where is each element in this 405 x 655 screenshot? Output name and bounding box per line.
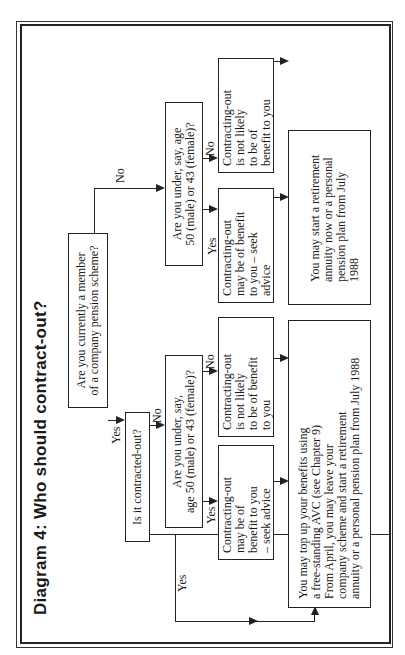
arrow-down-icon [116, 417, 125, 425]
no-label: No [203, 354, 218, 369]
arrow-down-icon [209, 206, 218, 214]
nonmember-not-likely-box: Contracting-out is not likely to be of b… [218, 58, 274, 173]
text-line: advice [260, 195, 273, 296]
question-member-line2: of a company pension scheme? [88, 240, 101, 401]
text-line: 1988 [348, 153, 361, 282]
yes-label: Yes [175, 575, 190, 592]
question-age-nonmember-line2: 50 (male) or 43 (female)? [184, 109, 197, 259]
flowchart: Diagram 4: Who should contract-out? Are … [17, 22, 392, 647]
diagram-title: Diagram 4: Who should contract-out? [31, 300, 51, 615]
no-label: No [203, 141, 218, 156]
no-label: No [150, 408, 165, 423]
question-contracted-out-box: Is it contracted-out? [125, 412, 150, 542]
arrow-down-icon [156, 185, 165, 193]
text-line: annuity or a personal pension plan from … [349, 329, 362, 599]
question-age-member-line2: age 50 (male) or 43 (female)? [184, 362, 197, 521]
member-benefit-box: Contracting-out may be of benefit to you… [218, 445, 274, 560]
yes-label: Yes [109, 427, 124, 444]
question-age-nonmember-box: Are you under, say, age 50 (male) or 43 … [165, 102, 203, 266]
connector-line [94, 188, 95, 233]
question-age-member-box: Are you under, say, age 50 (male) or 43 … [165, 355, 203, 528]
text-line: benefit to you [260, 65, 273, 166]
connector-line [94, 188, 162, 189]
question-member-box: Are you currently a member of a company … [68, 233, 108, 408]
arrow-down-icon [249, 618, 258, 626]
arrow-down-icon [280, 58, 289, 66]
text-line: – seek advice [260, 452, 273, 553]
no-label: No [113, 168, 128, 183]
nonmember-benefit-box: Contracting-out may be of benefit to you… [218, 188, 274, 303]
nonmember-outcome-box: You may start a retirement annuity now o… [288, 130, 371, 305]
connector-line [175, 621, 315, 622]
text-line: to you [260, 324, 273, 430]
question-contracted-out-text: Is it contracted-out? [131, 419, 144, 535]
yes-label: Yes [204, 507, 219, 524]
arrow-down-icon [209, 498, 218, 506]
connector-line [175, 535, 176, 622]
member-not-likely-box: Contracting-out is not likely to be of b… [218, 317, 274, 437]
member-outcome-box: You may top up your benefits using a fre… [288, 320, 371, 608]
